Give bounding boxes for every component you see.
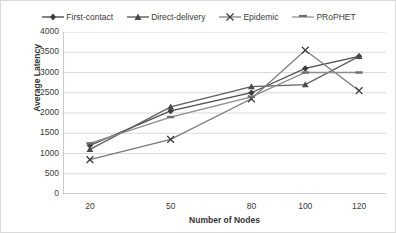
series-first-contact	[87, 53, 363, 149]
series-prophet	[86, 73, 362, 144]
legend-label-first-contact: First-contact	[66, 12, 113, 22]
series-line	[90, 56, 359, 145]
y-axis-tick-label: 1000	[17, 149, 59, 158]
y-axis-tick-label: 500	[17, 169, 59, 178]
x-axis-tick-label: 50	[151, 201, 191, 211]
y-axis-tick-label: 1500	[17, 128, 59, 137]
x-axis-tick-label: 100	[285, 201, 325, 211]
series-direct-delivery	[87, 53, 363, 152]
legend-item-first-contact[interactable]: First-contact	[42, 12, 113, 22]
legend-marker-cross-icon	[219, 12, 241, 22]
chart-legend: First-contact Direct-delivery Epidemic P…	[1, 9, 396, 25]
chart-svg	[63, 32, 386, 194]
legend-label-prophet: PRoPHET	[316, 12, 355, 22]
y-axis-tick-label: 3000	[17, 68, 59, 77]
legend-label-direct-delivery: Direct-delivery	[151, 12, 205, 22]
x-axis-tick-label: 120	[339, 201, 379, 211]
y-axis-tick-labels: 05001000150020002500300035004000	[13, 32, 59, 194]
chart-container: First-contact Direct-delivery Epidemic P…	[0, 0, 396, 233]
x-axis-title: Number of Nodes	[63, 215, 386, 225]
x-axis-tick-label: 80	[231, 201, 271, 211]
legend-label-epidemic: Epidemic	[243, 12, 278, 22]
legend-item-epidemic[interactable]: Epidemic	[219, 12, 278, 22]
legend-marker-dash-icon	[292, 12, 314, 22]
y-axis-tick-label: 4000	[17, 27, 59, 36]
y-axis-tick-label: 2500	[17, 88, 59, 97]
series-line	[90, 73, 359, 144]
series-line	[90, 56, 359, 149]
y-axis-tick-label: 0	[17, 189, 59, 198]
legend-item-direct-delivery[interactable]: Direct-delivery	[127, 12, 205, 22]
legend-marker-diamond-icon	[42, 12, 64, 22]
x-axis-tick-label: 20	[70, 201, 110, 211]
y-axis-tick-label: 3500	[17, 47, 59, 56]
legend-item-prophet[interactable]: PRoPHET	[292, 12, 355, 22]
plot-area	[63, 32, 386, 194]
data-point-marker	[302, 65, 308, 71]
data-point-marker	[248, 90, 254, 96]
data-point-marker	[87, 146, 94, 152]
y-axis-tick-label: 2000	[17, 108, 59, 117]
series-line	[90, 50, 359, 159]
legend-marker-triangle-icon	[127, 12, 149, 22]
